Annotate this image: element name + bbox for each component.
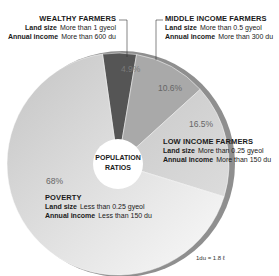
callout-wealthy-land-label: Land size bbox=[25, 24, 57, 31]
callout-middle-land-value: More than 0.5 gyeol bbox=[200, 24, 262, 31]
callout-low-title: LOW INCOME FARMERS bbox=[163, 137, 271, 146]
callout-wealthy-income-label: Annual income bbox=[8, 33, 58, 40]
callout-low-income-value: More than 150 du bbox=[216, 156, 271, 163]
callout-poverty-land-label: Land size bbox=[45, 203, 77, 210]
callout-middle-title: MIDDLE INCOME FARMERS bbox=[165, 14, 273, 23]
callout-low: LOW INCOME FARMERS Land sizeMore than 0.… bbox=[163, 137, 271, 164]
pct-poverty: 68% bbox=[46, 176, 63, 186]
callout-poverty-income-label: Annual income bbox=[45, 212, 95, 219]
center-title: POPULATION RATIOS bbox=[93, 153, 143, 173]
callout-middle-land-label: Land size bbox=[165, 24, 197, 31]
callout-poverty-land-value: Less than 0.25 gyeol bbox=[80, 203, 145, 210]
center-title-line1: POPULATION bbox=[93, 153, 143, 163]
callout-poverty: POVERTY Land sizeLess than 0.25 gyeol An… bbox=[45, 193, 152, 220]
pct-middle: 10.6% bbox=[158, 83, 182, 93]
unit-footnote: 1du = 1.8 ℓ bbox=[196, 255, 225, 261]
callout-poverty-title: POVERTY bbox=[45, 193, 152, 202]
callout-low-land-label: Land size bbox=[163, 147, 195, 154]
callout-wealthy: WEALTHY FARMERS Land sizeMore than 1 gye… bbox=[8, 14, 116, 41]
callout-poverty-income-value: Less than 150 du bbox=[98, 212, 152, 219]
callout-low-land-value: More than 0.25 gyeol bbox=[198, 147, 264, 154]
callout-wealthy-title: WEALTHY FARMERS bbox=[8, 14, 116, 23]
pct-wealthy: 4.9% bbox=[121, 64, 140, 74]
callout-middle-income-label: Annual income bbox=[165, 33, 215, 40]
pct-low: 16.5% bbox=[189, 119, 213, 129]
callout-middle: MIDDLE INCOME FARMERS Land sizeMore than… bbox=[165, 14, 273, 41]
callout-wealthy-income-value: More than 600 du bbox=[61, 33, 116, 40]
callout-low-income-label: Annual income bbox=[163, 156, 213, 163]
callout-wealthy-land-value: More than 1 gyeol bbox=[60, 24, 116, 31]
callout-middle-income-value: More than 300 du bbox=[218, 33, 273, 40]
center-title-line2: RATIOS bbox=[93, 163, 143, 173]
